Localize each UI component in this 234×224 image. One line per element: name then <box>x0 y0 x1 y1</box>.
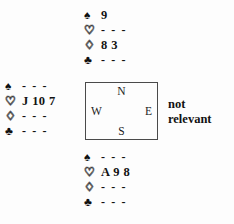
south-clubs-row: ♣ - - - <box>84 195 130 210</box>
club-icon: ♣ <box>5 124 20 139</box>
compass-box: N W E S <box>85 82 158 140</box>
south-diamonds-cards: - - - <box>99 180 127 195</box>
south-diamonds-row: ♢ - - - <box>84 180 130 195</box>
north-hand: ♠ 9 ♡ - - - ♢ 8 3 ♣ - - - <box>84 8 127 68</box>
diamond-icon: ♢ <box>84 38 99 53</box>
south-hand: ♠ - - - ♡ A 9 8 ♢ - - - ♣ - - - <box>84 150 130 210</box>
south-spades-cards: - - - <box>99 150 127 165</box>
heart-icon: ♡ <box>84 23 99 38</box>
diamond-icon: ♢ <box>84 180 99 195</box>
north-spades-cards: 9 <box>99 8 108 23</box>
spade-icon: ♠ <box>5 79 20 94</box>
spade-icon: ♠ <box>84 8 99 23</box>
compass-east-label: E <box>145 105 152 117</box>
west-diamonds-cards: - - - <box>20 109 48 124</box>
west-hearts-row: ♡ J 10 7 <box>5 94 56 109</box>
north-diamonds-row: ♢ 8 3 <box>84 38 127 53</box>
east-note-line-2: relevant <box>168 112 212 127</box>
west-diamonds-row: ♢ - - - <box>5 109 56 124</box>
west-spades-row: ♠ - - - <box>5 79 56 94</box>
west-spades-cards: - - - <box>20 79 48 94</box>
north-hearts-cards: - - - <box>99 23 127 38</box>
west-clubs-cards: - - - <box>20 124 48 139</box>
north-clubs-row: ♣ - - - <box>84 53 127 68</box>
north-clubs-cards: - - - <box>99 53 127 68</box>
bridge-deal-diagram: ♠ 9 ♡ - - - ♢ 8 3 ♣ - - - ♠ - - - ♡ J 10… <box>0 0 234 224</box>
compass-south-label: S <box>118 125 124 137</box>
north-diamonds-cards: 8 3 <box>99 38 118 53</box>
south-hearts-row: ♡ A 9 8 <box>84 165 130 180</box>
east-note-line-1: not <box>168 97 212 112</box>
west-hearts-cards: J 10 7 <box>20 94 56 109</box>
west-hand: ♠ - - - ♡ J 10 7 ♢ - - - ♣ - - - <box>5 79 56 139</box>
north-spades-row: ♠ 9 <box>84 8 127 23</box>
north-hearts-row: ♡ - - - <box>84 23 127 38</box>
south-hearts-cards: A 9 8 <box>99 165 130 180</box>
compass-west-label: W <box>91 105 102 117</box>
compass-north-label: N <box>117 85 125 97</box>
club-icon: ♣ <box>84 53 99 68</box>
diamond-icon: ♢ <box>5 109 20 124</box>
east-hand-note: not relevant <box>168 97 212 127</box>
club-icon: ♣ <box>84 195 99 210</box>
spade-icon: ♠ <box>84 150 99 165</box>
south-spades-row: ♠ - - - <box>84 150 130 165</box>
heart-icon: ♡ <box>84 165 99 180</box>
south-clubs-cards: - - - <box>99 195 127 210</box>
heart-icon: ♡ <box>5 94 20 109</box>
west-clubs-row: ♣ - - - <box>5 124 56 139</box>
